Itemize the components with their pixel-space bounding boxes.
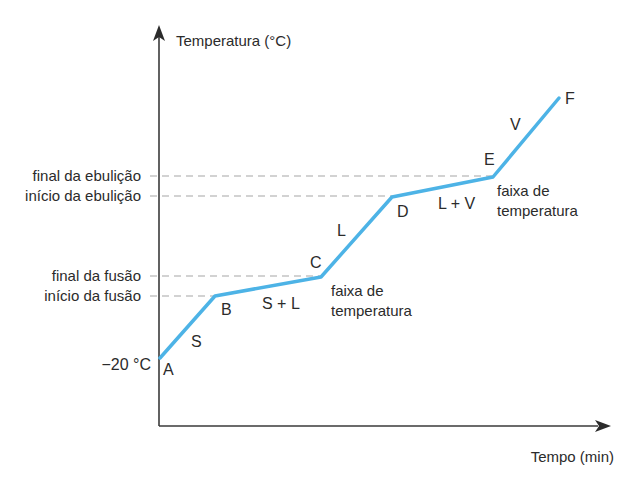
phase-label-v: V [510, 116, 521, 133]
phase-label-s: S [191, 333, 202, 350]
point-label-c: C [310, 254, 322, 271]
label-minus-20: −20 °C [101, 356, 151, 373]
point-label-d: D [397, 203, 409, 220]
annotation-ebulicao-range-line1: faixa de [497, 182, 550, 199]
point-label-e: E [484, 151, 495, 168]
label-final-ebulicao: final da ebulição [33, 167, 141, 184]
heating-curve-chart: Temperatura (°C) Tempo (min) final da eb… [0, 0, 644, 485]
point-label-f: F [565, 90, 575, 107]
annotation-ebulicao-range-line2: temperatura [497, 202, 579, 219]
point-label-b: B [221, 301, 232, 318]
point-label-a: A [163, 361, 174, 378]
y-axis-label: Temperatura (°C) [176, 32, 291, 49]
label-inicio-fusao: início da fusão [44, 287, 141, 304]
phase-label-l-v: L + V [438, 195, 476, 212]
phase-label-l: L [337, 222, 346, 239]
heating-curve-line [160, 98, 559, 358]
label-inicio-ebulicao: início da ebulição [25, 187, 141, 204]
label-final-fusao: final da fusão [52, 267, 141, 284]
phase-label-s-l: S + L [262, 295, 300, 312]
x-axis-label: Tempo (min) [531, 448, 614, 465]
annotation-fusao-range-line2: temperatura [331, 302, 413, 319]
annotation-fusao-range-line1: faixa de [331, 282, 384, 299]
axes [159, 36, 598, 426]
